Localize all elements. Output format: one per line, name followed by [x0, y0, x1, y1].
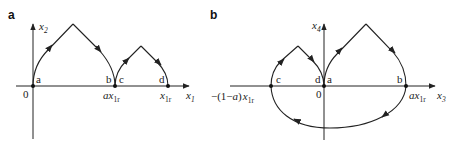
point-origin	[322, 84, 326, 88]
point-c-label: c	[119, 73, 124, 85]
panel-b: b x4 x3 a d c b 0 −(1−a)x1r ax1r	[210, 8, 446, 140]
point-d	[166, 84, 170, 88]
x3-axis-label: x3	[436, 89, 446, 104]
panel-b-label: b	[210, 8, 217, 22]
arrow-icon	[279, 59, 284, 64]
tick-neg-1-a-x1r: −(1−a)x1r	[211, 90, 254, 105]
origin-label: 0	[316, 88, 322, 100]
x4-axis-label: x4	[311, 19, 321, 34]
arrow-icon	[310, 57, 314, 62]
x1-axis-label: x1	[185, 89, 195, 104]
point-c	[269, 84, 273, 88]
arrow-icon	[124, 58, 129, 63]
point-a-label: a	[327, 73, 332, 85]
point-c-label: c	[276, 73, 281, 85]
point-b	[404, 84, 408, 88]
panel-a-label: a	[8, 8, 15, 22]
panel-a: a x2 x1 a b c d 0 ax1r x1r	[8, 8, 195, 139]
point-a-label: a	[36, 73, 41, 85]
point-d-label: d	[315, 73, 321, 85]
tick-a-x1r: ax1r	[103, 89, 120, 104]
point-b-label: b	[106, 73, 112, 85]
arrow-icon	[47, 45, 52, 51]
origin-label: 0	[23, 88, 29, 100]
point-b-c	[113, 84, 117, 88]
phase-diagram: a x2 x1 a b c d 0 ax1r x1r b	[0, 0, 462, 147]
tick-a-x1r: ax1r	[409, 89, 426, 104]
point-b-label: b	[397, 73, 403, 85]
x2-axis-label: x2	[38, 20, 48, 35]
point-origin	[31, 84, 35, 88]
trajectory-lower-loop	[271, 86, 406, 128]
arrow-icon	[96, 46, 101, 52]
arrow-icon	[337, 48, 342, 53]
tick-x1r: x1r	[159, 89, 172, 104]
point-d-label: d	[159, 73, 165, 85]
